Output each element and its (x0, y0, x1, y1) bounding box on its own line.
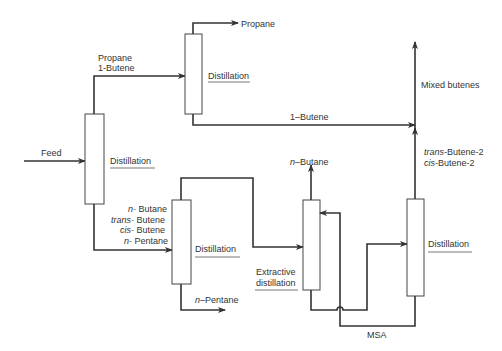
column-3-label: Distillation (195, 244, 236, 254)
feed-label: Feed (41, 148, 62, 158)
svg-text:trans- Butene: trans- Butene (111, 215, 165, 225)
col2-top-stream (193, 23, 238, 34)
column-5 (407, 199, 424, 296)
propane-product-label: Propane (241, 19, 275, 29)
col5-top-ital-2: cis (424, 158, 435, 168)
svg-text:cis-Butene-2: cis-Butene-2 (424, 158, 475, 168)
column-5-label: Distillation (428, 239, 469, 249)
svg-text:n–Pentane: n–Pentane (195, 295, 239, 305)
c1b-rest-0: Butane (136, 204, 167, 214)
column-2 (185, 34, 202, 114)
col1-top-label-1: Propane (98, 53, 132, 63)
c1b-rest-1: Butene (134, 215, 165, 225)
column-4-label-1: Extractive (256, 267, 296, 277)
n-pentane-rest: –Pentane (200, 295, 239, 305)
c1b-ital-2: cis- (120, 225, 134, 235)
col4-bottom-stream (311, 244, 407, 310)
svg-text:n–Butane: n–Butane (290, 157, 329, 167)
column-4 (303, 200, 320, 290)
col5-top-rest-1: -Butene-2 (444, 147, 484, 157)
col5-top-rest-2: -Butene-2 (435, 158, 475, 168)
column-1 (85, 114, 104, 204)
1-butene-label: 1–Butene (290, 112, 329, 122)
column-3 (172, 200, 191, 284)
process-flow-diagram: Feed Distillation Propane 1-Butene Disti… (0, 0, 502, 351)
diagram-canvas: Feed Distillation Propane 1-Butene Disti… (0, 0, 502, 351)
mixed-butenes-label: Mixed butenes (421, 80, 480, 90)
svg-text:n- Butane: n- Butane (128, 204, 167, 214)
c1b-rest-3: Pentane (132, 236, 168, 246)
svg-text:n- Pentane: n- Pentane (124, 236, 168, 246)
svg-text:trans-Butene-2: trans-Butene-2 (424, 147, 484, 157)
c1b-ital-3: n- (124, 236, 132, 246)
n-butane-rest: –Butane (295, 157, 329, 167)
col1-top-stream (94, 76, 185, 114)
column-4-label-2: distillation (256, 278, 296, 288)
c1b-ital-1: trans- (111, 215, 134, 225)
c1b-rest-2: Butene (134, 225, 165, 235)
col1-top-label-2: 1-Butene (98, 63, 135, 73)
col3-top-stream (181, 178, 303, 247)
svg-text:cis- Butene: cis- Butene (120, 225, 165, 235)
column-2-label: Distillation (208, 71, 249, 81)
column-1-label: Distillation (110, 156, 151, 166)
col5-top-ital-1: trans (424, 147, 445, 157)
msa-label: MSA (367, 330, 387, 340)
c1b-ital-0: n- (128, 204, 136, 214)
